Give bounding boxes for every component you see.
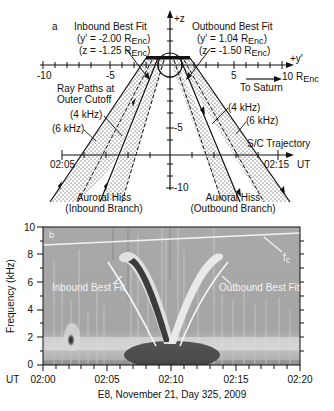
outbound-fit-title: Outbound Best Fit bbox=[192, 21, 273, 32]
right-6khz-label: (6 kHz) bbox=[246, 115, 278, 126]
time-tick-0220: 02:20 bbox=[287, 374, 312, 385]
panel-b-label: b bbox=[49, 230, 54, 240]
panel-b: 0 2 4 6 8 10 Frequency (kHz) UT 02:00 02… bbox=[5, 222, 313, 400]
figure: a Inbound Best Fit (y' = -2.00 REnc) (z … bbox=[0, 0, 334, 411]
z-axis-arrow-icon bbox=[167, 10, 173, 18]
z-tick-neg5: -5 bbox=[174, 122, 183, 133]
y-tick-neg5: -5 bbox=[106, 70, 115, 81]
ut-prefix: UT bbox=[6, 374, 19, 385]
time-tick-0200: 02:00 bbox=[30, 374, 55, 385]
time-ticks bbox=[43, 365, 300, 371]
ut-unit-label: UT bbox=[297, 159, 310, 170]
z-tick-neg10: -10 bbox=[174, 182, 189, 193]
time-tick-0205: 02:05 bbox=[94, 374, 119, 385]
trajectory-arrow-icon bbox=[286, 152, 294, 158]
freq-tick-2: 2 bbox=[27, 332, 33, 343]
outbound-fit-z: (z = -1.50 REnc) bbox=[199, 45, 270, 58]
time-tick-0210: 02:10 bbox=[158, 374, 183, 385]
ray-paths-label-1: Ray Paths at bbox=[57, 83, 114, 94]
to-saturn-label: To Saturn bbox=[240, 82, 283, 93]
time-tick-0215: 02:15 bbox=[223, 374, 248, 385]
freq-axis-label: Frequency (kHz) bbox=[5, 259, 16, 333]
ut-left-label: 02:05 bbox=[50, 159, 75, 170]
panel-a: a Inbound Best Fit (y' = -2.00 REnc) (z … bbox=[37, 10, 319, 214]
z-axis-label: +z bbox=[174, 13, 185, 24]
left-6khz-label: (6 kHz) bbox=[52, 123, 84, 134]
panel-a-label: a bbox=[52, 21, 58, 32]
freq-tick-4: 4 bbox=[27, 304, 33, 315]
outbound-fit-label: Outbound Best Fit bbox=[219, 282, 300, 293]
inbound-branch-label-1: Auroral Hiss bbox=[77, 192, 131, 203]
ray-paths-label-2: Outer Cutoff bbox=[57, 94, 112, 105]
inbound-fit-title: Inbound Best Fit bbox=[74, 21, 147, 32]
trajectory-label: S/C Trajectory bbox=[247, 138, 310, 149]
inbound-fit-z: (z = -1.25 REnc) bbox=[79, 45, 150, 58]
y-tick-10: 10 REnc bbox=[282, 71, 319, 84]
source-region-bar bbox=[146, 56, 190, 60]
freq-tick-8: 8 bbox=[27, 249, 33, 260]
freq-tick-0: 0 bbox=[27, 359, 33, 370]
y-tick-5: 5 bbox=[231, 70, 237, 81]
inbound-fit-label: Inbound Best Fit bbox=[52, 282, 125, 293]
right-4khz-label: (4 kHz) bbox=[228, 102, 260, 113]
ut-right-label: 02:15 bbox=[264, 159, 289, 170]
freq-tick-10: 10 bbox=[24, 222, 36, 233]
time-axis-label: E8, November 21, Day 325, 2009 bbox=[98, 389, 247, 400]
spectrogram bbox=[43, 227, 300, 369]
left-4khz-label: (4 kHz) bbox=[70, 109, 102, 120]
y-axis-label: +y' bbox=[290, 53, 303, 64]
outbound-branch-label-2: (Outbound Branch) bbox=[190, 203, 275, 214]
freq-tick-6: 6 bbox=[27, 277, 33, 288]
inbound-branch-label-2: (Inbound Branch) bbox=[65, 203, 142, 214]
outbound-branch-label-1: Auroral Hiss bbox=[206, 192, 260, 203]
y-tick-neg10: -10 bbox=[37, 70, 52, 81]
